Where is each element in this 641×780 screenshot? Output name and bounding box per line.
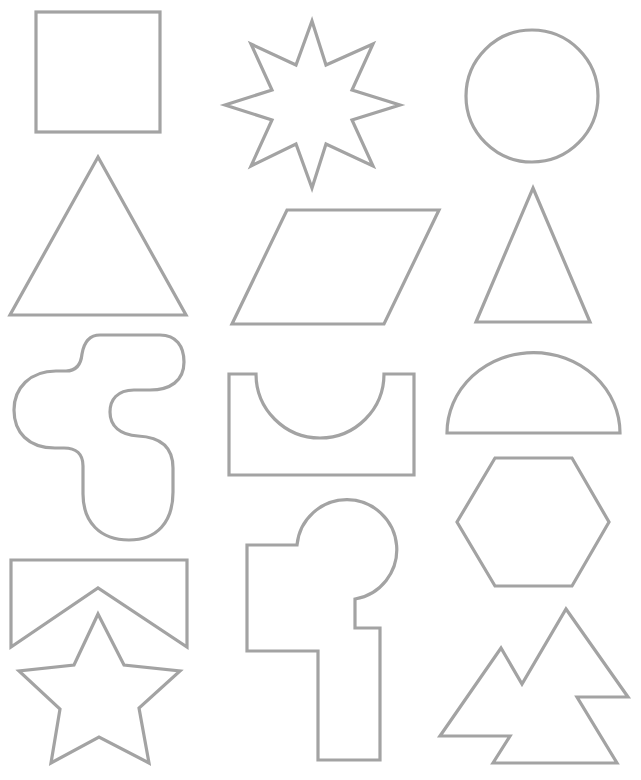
- shapes-canvas: [0, 0, 641, 780]
- narrow-triangle-shape: [476, 188, 590, 322]
- hexagon-shape: [457, 458, 609, 586]
- chevron-banner-shape: [11, 560, 187, 647]
- blob-shape: [14, 335, 184, 540]
- notched-rectangle-shape: [229, 374, 414, 475]
- mountains-shape: [440, 609, 628, 763]
- parallelogram-shape: [232, 210, 439, 324]
- five-point-star-shape: [19, 614, 180, 763]
- circle-shape: [466, 30, 598, 162]
- keyhole-l-shape: [247, 500, 397, 760]
- square-shape: [36, 12, 160, 132]
- triangle-shape: [10, 157, 186, 315]
- semicircle-shape: [447, 353, 620, 433]
- eight-point-star-shape: [225, 21, 400, 188]
